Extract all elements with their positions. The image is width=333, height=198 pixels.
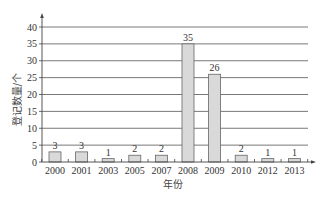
data-label: 1	[292, 147, 297, 158]
bar	[76, 152, 88, 162]
data-label: 2	[159, 143, 164, 154]
data-label: 2	[239, 143, 244, 154]
x-tick-label: 2001	[72, 165, 92, 176]
y-tick-label: 15	[27, 106, 37, 117]
y-tick-label: 40	[27, 22, 37, 33]
bar	[262, 159, 274, 162]
x-tick-label: 2005	[125, 165, 145, 176]
y-tick-label: 10	[27, 123, 37, 134]
x-axis-title: 年份	[163, 178, 183, 190]
data-label: 26	[210, 62, 220, 73]
y-axis-arrow-icon	[40, 13, 44, 18]
bar	[102, 159, 114, 162]
y-tick-label: 25	[27, 72, 37, 83]
bars	[49, 44, 300, 162]
bar	[129, 155, 141, 162]
x-tick-label: 2000	[45, 165, 65, 176]
data-label: 1	[106, 147, 111, 158]
x-tick-label: 2007	[151, 165, 171, 176]
data-label: 3	[79, 140, 84, 151]
y-tick-label: 35	[27, 38, 37, 49]
x-tick-label: 2012	[258, 165, 278, 176]
data-label: 3	[53, 140, 58, 151]
y-tick-label: 0	[32, 157, 37, 168]
x-tick-label: 2010	[231, 165, 251, 176]
y-tick-label: 20	[27, 89, 37, 100]
bar	[235, 155, 247, 162]
bar	[288, 159, 300, 162]
y-tick-label: 30	[27, 55, 37, 66]
bar	[49, 152, 61, 162]
x-tick-label: 2008	[178, 165, 198, 176]
x-tick-label: 2013	[284, 165, 304, 176]
bar	[209, 74, 221, 162]
bar-chart: 0510152025303540 20002001200320052007200…	[0, 0, 333, 198]
x-axis-arrow-icon	[311, 160, 316, 164]
x-tick-label: 2003	[98, 165, 118, 176]
bar	[155, 155, 167, 162]
bar	[182, 44, 194, 162]
x-tick-label: 2009	[205, 165, 225, 176]
data-label: 1	[265, 147, 270, 158]
data-label: 2	[132, 143, 137, 154]
y-tick-label: 5	[32, 140, 37, 151]
y-axis-title: 登记数量/个	[11, 73, 23, 126]
y-tick-labels: 0510152025303540	[27, 22, 37, 168]
data-label: 35	[183, 32, 193, 43]
